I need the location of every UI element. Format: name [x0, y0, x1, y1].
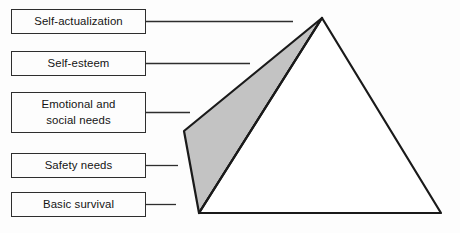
label-box-safety-needs[interactable]: Safety needs: [11, 153, 146, 178]
label-text-basic-survival: Basic survival: [39, 197, 118, 212]
label-text-self-esteem: Self-esteem: [44, 56, 114, 71]
label-box-self-actualization[interactable]: Self-actualization: [11, 9, 146, 34]
label-box-basic-survival[interactable]: Basic survival: [11, 192, 146, 217]
label-text-self-actualization: Self-actualization: [30, 14, 127, 29]
label-text-safety-needs: Safety needs: [41, 158, 117, 173]
label-text-emotional-and-social-needs: Emotional and social needs: [37, 97, 119, 127]
label-box-emotional-and-social-needs[interactable]: Emotional and social needs: [11, 92, 146, 133]
label-box-self-esteem[interactable]: Self-esteem: [11, 51, 146, 76]
diagram-canvas: Self-actualization Self-esteem Emotional…: [0, 0, 460, 233]
